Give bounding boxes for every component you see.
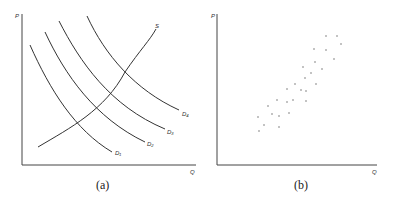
demand-label-2: D₂: [147, 141, 154, 147]
y-axis-label: P: [211, 13, 215, 19]
y-axis-label: P: [15, 13, 19, 19]
x-axis-label: Q: [372, 169, 377, 175]
caption-a: (a): [96, 178, 109, 193]
supply-curve: [38, 29, 156, 147]
demand-label-4: D₄: [182, 111, 189, 117]
figure: P Q S D₁ D₂ D₃ D₄ P Q: [0, 0, 393, 202]
demand-curve-3: [59, 21, 165, 129]
x-axis-label: Q: [190, 169, 195, 175]
caption-b: (b): [294, 178, 308, 193]
demand-label-1: D₁: [115, 150, 121, 156]
demand-curve-2: [45, 32, 145, 142]
supply-label: S: [155, 23, 159, 29]
demand-curve-4: [87, 16, 179, 110]
scatter-points: [257, 35, 342, 132]
panel-b: P Q: [211, 13, 377, 175]
panel-a: P Q S D₁ D₂ D₃ D₄: [15, 13, 196, 175]
demand-label-3: D₃: [167, 129, 174, 135]
demand-curve-1: [30, 45, 112, 152]
